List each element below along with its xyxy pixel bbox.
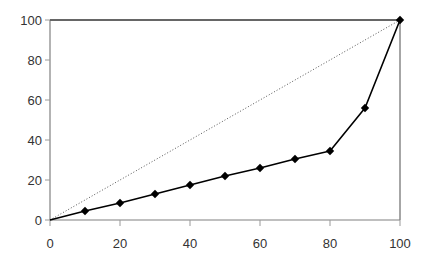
data-point-marker	[186, 181, 194, 189]
x-tick-label-60: 60	[240, 237, 280, 250]
y-tick-label-100: 100	[6, 14, 42, 27]
data-point-marker	[151, 190, 159, 198]
data-point-marker	[291, 155, 299, 163]
x-tick-label-100: 100	[380, 237, 420, 250]
y-axis-ticks	[45, 20, 50, 220]
data-point-marker	[256, 164, 264, 172]
x-tick-label-80: 80	[310, 237, 350, 250]
chart-plot-area	[0, 0, 432, 263]
y-tick-label-40: 40	[6, 134, 42, 147]
data-point-marker	[221, 172, 229, 180]
chart-container: 100 80 60 40 20 0 0 20 40 60 80 100	[0, 0, 432, 263]
y-tick-label-0: 0	[6, 214, 42, 227]
y-tick-label-20: 20	[6, 174, 42, 187]
x-tick-label-20: 20	[100, 237, 140, 250]
y-tick-label-60: 60	[6, 94, 42, 107]
y-tick-label-80: 80	[6, 54, 42, 67]
x-tick-label-40: 40	[170, 237, 210, 250]
equality-reference-line	[50, 20, 400, 220]
x-axis-ticks	[50, 220, 400, 226]
data-point-marker	[81, 207, 89, 215]
data-point-marker	[116, 199, 124, 207]
x-tick-label-0: 0	[30, 237, 70, 250]
data-point-marker	[396, 16, 404, 24]
